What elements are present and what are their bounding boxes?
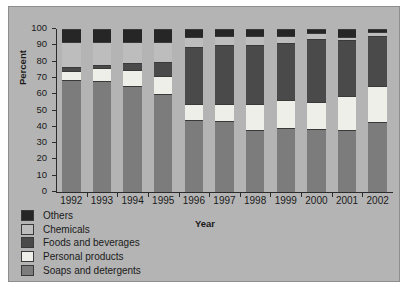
y-tick: 10 [52,175,56,176]
y-tick: 90 [52,44,56,45]
legend-label: Personal products [43,251,124,262]
bar-segment [215,104,233,121]
y-tick-label: 40 [36,120,47,131]
bar-segment [307,29,325,33]
bar-segment [215,29,233,36]
bar-segment [123,29,141,42]
legend-swatch [21,210,34,221]
bar-segment [277,128,295,192]
bar-2000 [307,29,325,192]
x-axis-line [56,192,393,193]
bar-2002 [368,29,386,192]
legend-item: Soaps and detergents [21,263,241,277]
y-axis-line [56,29,57,193]
chart-figure: Percent 0102030405060708090100 199219931… [8,6,400,282]
bar-segment [246,45,264,104]
bar-segment [246,130,264,192]
legend-label: Others [43,210,73,221]
bar-2001 [338,29,356,192]
y-tick-label: 90 [36,38,47,49]
bar-segment [154,29,172,42]
bar-segment [185,29,203,37]
x-tick-label: 2000 [301,195,332,206]
bar-segment [93,29,111,42]
y-tick: 70 [52,77,56,78]
legend-label: Foods and beverages [43,237,140,248]
bar-segment [338,37,356,40]
bar-1993 [93,29,111,192]
bar-segment [368,122,386,192]
bar-segment [93,68,111,81]
x-tick-label: 2001 [332,195,363,206]
bar-segment [307,129,325,192]
bar-segment [368,86,386,122]
x-tick-label: 1992 [56,195,87,206]
legend-label: Soaps and detergents [43,265,141,276]
bar-segment [62,67,80,72]
legend-item: Chemicals [21,223,241,237]
legend-item: Foods and beverages [21,236,241,250]
bar-segment [62,29,80,42]
legend-swatch [21,224,34,235]
bar-segment [123,86,141,192]
bar-segment [277,36,295,43]
bar-segment [338,96,356,130]
bar-segment [123,42,141,63]
x-tick-label: 1993 [87,195,118,206]
bar-segment [215,36,233,45]
y-tick: 20 [52,158,56,159]
legend-label: Chemicals [43,224,90,235]
bar-segment [215,45,233,104]
x-tick-label: 1997 [209,195,240,206]
bar-segment [62,80,80,192]
bar-segment [277,43,295,100]
plot-area: 0102030405060708090100 [56,29,393,193]
bar-segment [185,47,203,104]
legend-swatch [21,265,34,276]
bar-segment [246,36,264,45]
bar-segment [154,76,172,94]
y-tick: 50 [52,110,56,111]
bar-segment [154,94,172,192]
bar-1995 [154,29,172,192]
bar-segment [246,29,264,36]
bar-1998 [246,29,264,192]
legend-item: Personal products [21,250,241,264]
legend-item: Others [21,209,241,223]
bar-segment [277,29,295,36]
x-tick-label: 1998 [240,195,271,206]
bar-segment [185,104,203,120]
bar-segment [93,81,111,192]
bar-segment [338,29,356,37]
bar-segment [338,40,356,95]
bar-segment [62,42,80,66]
bar-1996 [185,29,203,192]
x-tick-label: 1999 [270,195,301,206]
y-tick-label: 100 [31,22,47,33]
bar-segment [93,42,111,65]
x-axis-labels: 1992199319941995199619971998199920002001… [56,195,393,209]
bar-segment [277,100,295,128]
y-axis-title: Percent [17,50,28,85]
bar-segment [368,36,386,87]
bar-segment [215,121,233,192]
x-tick-label: 2002 [362,195,393,206]
x-tick-label: 1994 [117,195,148,206]
chart-legend: OthersChemicalsFoods and beveragesPerson… [21,209,241,277]
bar-segment [154,62,172,77]
y-tick-label: 60 [36,87,47,98]
y-tick-label: 10 [36,169,47,180]
y-tick: 60 [52,93,56,94]
bar-segment [368,29,386,32]
y-tick-label: 0 [42,185,47,196]
y-tick: 80 [52,61,56,62]
y-tick-label: 30 [36,136,47,147]
bar-1999 [277,29,295,192]
x-tick-label: 1995 [148,195,179,206]
bar-segment [154,42,172,62]
bar-1997 [215,29,233,192]
y-tick: 100 [52,28,56,29]
bar-segment [123,63,141,70]
y-tick: 0 [52,191,56,192]
bar-1994 [123,29,141,192]
